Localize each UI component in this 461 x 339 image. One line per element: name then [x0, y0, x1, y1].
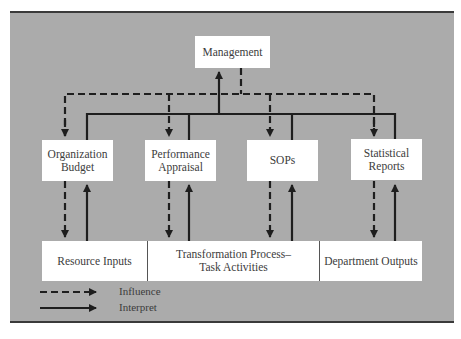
segment-label-line1: Transformation Process–	[176, 248, 291, 261]
node-organization-budget: Organization Budget	[42, 140, 113, 181]
process-bar: Resource Inputs Transformation Process– …	[42, 241, 422, 281]
interpret-connectors	[87, 72, 395, 241]
segment-resource-inputs: Resource Inputs	[42, 241, 147, 281]
node-label-line1: Statistical	[364, 147, 409, 160]
node-management: Management	[195, 36, 270, 68]
legend-interpret-label: Interpret	[119, 301, 157, 313]
segment-department-outputs: Department Outputs	[319, 241, 422, 281]
node-label-line2: Appraisal	[158, 161, 203, 174]
diagram-figure: Management Organization Budget Performan…	[0, 0, 461, 339]
segment-label: Department Outputs	[324, 255, 418, 268]
node-sops: SOPs	[247, 140, 318, 181]
node-label-line1: Performance	[151, 148, 210, 161]
legend-influence-label: Influence	[119, 285, 161, 297]
segment-label-line2: Task Activities	[199, 261, 268, 274]
node-label-line1: SOPs	[270, 154, 296, 167]
node-label-line2: Reports	[369, 160, 405, 173]
node-performance-appraisal: Performance Appraisal	[145, 140, 216, 181]
node-label-line2: Budget	[61, 161, 94, 174]
segment-label: Resource Inputs	[57, 255, 131, 268]
node-management-label: Management	[202, 46, 262, 59]
node-statistical-reports: Statistical Reports	[351, 139, 422, 180]
node-label-line1: Organization	[48, 148, 108, 161]
segment-transformation-process: Transformation Process– Task Activities	[147, 241, 319, 281]
